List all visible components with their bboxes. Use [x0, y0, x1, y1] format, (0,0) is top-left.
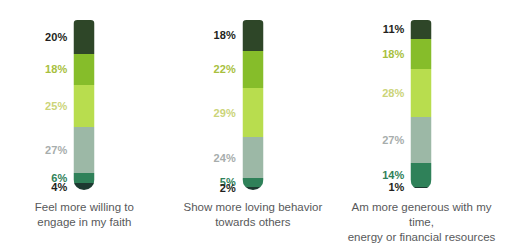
- segment-value-label: 22%: [214, 63, 236, 75]
- segment-value-label: 28%: [382, 87, 404, 99]
- segment-value-label: 11%: [383, 23, 405, 35]
- bar-segment[interactable]: [74, 20, 95, 54]
- caption-line-2: towards others: [215, 216, 290, 228]
- bar-segment[interactable]: [242, 88, 263, 137]
- segment-value-label: 4%: [51, 181, 67, 193]
- segment-value-label: 25%: [45, 100, 67, 112]
- bar-segment[interactable]: [242, 20, 263, 51]
- bar-segment[interactable]: [74, 127, 95, 173]
- segment-value-label: 20%: [45, 31, 67, 43]
- caption-line-2: engage in my faith: [37, 216, 131, 228]
- stacked-bar-2: [411, 20, 432, 190]
- column-caption-0: Feel more willing to engage in my faith: [0, 200, 169, 230]
- column-caption-1: Show more loving behavior towards others: [169, 200, 338, 230]
- caption-line-1: Feel more willing to: [35, 201, 134, 213]
- bar-segment[interactable]: [242, 187, 263, 190]
- stacked-bar-1: [242, 20, 263, 190]
- bar-segment[interactable]: [242, 51, 263, 88]
- chart-column-2: 11% 18% 28% 27% 14% 1% Am more generous …: [337, 0, 506, 244]
- segment-value-label: 29%: [214, 107, 236, 119]
- bar-area-0: 20% 18% 25% 27% 6% 4%: [0, 20, 169, 190]
- segment-value-label: 18%: [45, 63, 67, 75]
- segment-value-label: 1%: [388, 181, 404, 193]
- column-caption-2: Am more generous with my time, energy or…: [337, 200, 506, 244]
- bar-segment[interactable]: [411, 187, 432, 189]
- bar-segment[interactable]: [411, 20, 432, 39]
- segment-value-label: 18%: [214, 29, 236, 41]
- bar-segment[interactable]: [411, 117, 432, 163]
- bar-area-2: 11% 18% 28% 27% 14% 1%: [337, 20, 506, 190]
- caption-line-1: Am more generous with my time,: [352, 201, 492, 228]
- bar-segment[interactable]: [74, 173, 95, 183]
- bar-segment[interactable]: [411, 39, 432, 70]
- bar-segment[interactable]: [411, 69, 432, 117]
- chart-column-0: 20% 18% 25% 27% 6% 4% Feel more willing …: [0, 0, 169, 244]
- bar-segment[interactable]: [242, 178, 263, 187]
- bar-segment[interactable]: [242, 137, 263, 178]
- bar-area-1: 18% 22% 29% 24% 5% 2%: [169, 20, 338, 190]
- bar-segment[interactable]: [74, 54, 95, 85]
- segment-value-label: 14%: [382, 169, 404, 181]
- caption-line-2: energy or financial resources: [348, 231, 496, 243]
- segment-value-label: 18%: [382, 48, 404, 60]
- stacked-bar-chart: 20% 18% 25% 27% 6% 4% Feel more willing …: [0, 0, 506, 244]
- stacked-bar-0: [74, 20, 95, 190]
- segment-value-label: 2%: [220, 182, 236, 194]
- segment-value-label: 24%: [214, 152, 236, 164]
- bar-segment[interactable]: [411, 163, 432, 187]
- bar-segment[interactable]: [74, 85, 95, 128]
- chart-column-1: 18% 22% 29% 24% 5% 2% Show more loving b…: [169, 0, 338, 244]
- bar-segment[interactable]: [74, 183, 95, 190]
- caption-line-1: Show more loving behavior: [184, 201, 323, 213]
- segment-value-label: 27%: [382, 134, 404, 146]
- segment-value-label: 27%: [45, 144, 67, 156]
